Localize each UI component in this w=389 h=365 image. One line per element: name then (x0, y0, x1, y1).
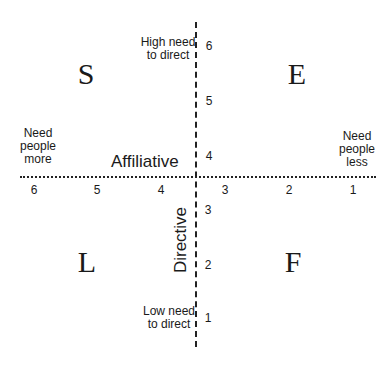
y-tick-1: 1 (205, 311, 212, 325)
vertical-axis-line (195, 22, 197, 347)
quadrant-l: L (78, 245, 96, 279)
x-tick-6: 6 (31, 183, 38, 197)
y-tick-3: 3 (205, 203, 212, 217)
x-tick-2: 2 (286, 183, 293, 197)
x-tick-3: 3 (222, 183, 229, 197)
need-people-more-note: Need people more (13, 127, 63, 166)
y-tick-4: 4 (206, 149, 213, 163)
high-need-to-direct-note: High need to direct (138, 36, 198, 62)
need-people-less-note: Need people less (332, 130, 382, 169)
quadrant-f: F (285, 245, 302, 279)
x-tick-5: 5 (94, 183, 101, 197)
y-tick-5: 5 (206, 94, 213, 108)
directive-axis-title: Directive (171, 207, 191, 273)
low-need-to-direct-note: Low need to direct (139, 305, 199, 331)
quadrant-e: E (288, 57, 306, 91)
x-tick-4: 4 (158, 183, 165, 197)
horizontal-axis-line (20, 176, 376, 178)
x-tick-1: 1 (350, 183, 357, 197)
affiliative-axis-title: Affiliative (111, 152, 179, 172)
y-tick-6: 6 (206, 39, 213, 53)
y-tick-2: 2 (205, 258, 212, 272)
quadrant-s: S (78, 57, 95, 91)
